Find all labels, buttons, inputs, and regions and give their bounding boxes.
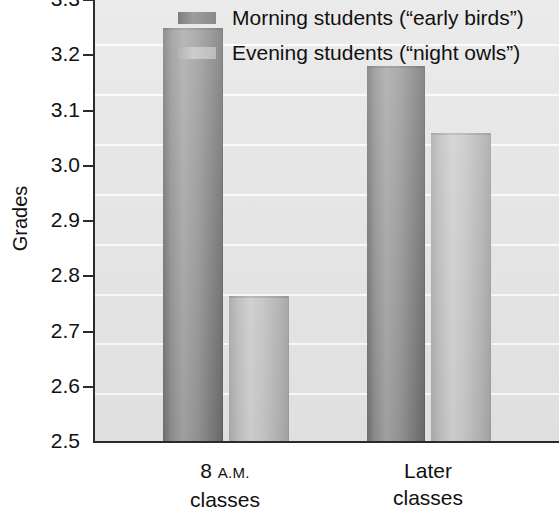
- y-tick-3.3: [83, 0, 94, 1]
- legend: Morning students (“early birds”) Evening…: [178, 0, 558, 70]
- legend-swatch-morning-icon: [178, 12, 216, 24]
- legend-label-evening: Evening students (“night owls”): [232, 41, 520, 65]
- bar-morning-later[interactable]: [367, 66, 425, 442]
- y-tick-label-2.6: 2.6: [34, 374, 80, 398]
- y-tick-2.6: [83, 386, 94, 388]
- y-tick-label-3.0: 3.0: [34, 153, 80, 177]
- x-category-number: Later: [404, 459, 452, 482]
- bar-morning-8am[interactable]: [163, 28, 223, 442]
- x-category-line2: classes: [348, 484, 508, 511]
- y-tick-label-2.9: 2.9: [34, 208, 80, 232]
- legend-item-evening[interactable]: Evening students (“night owls”): [178, 35, 558, 70]
- bar-top-edge: [229, 296, 288, 298]
- legend-item-morning[interactable]: Morning students (“early birds”): [178, 0, 558, 35]
- y-tick-label-3.1: 3.1: [34, 98, 80, 122]
- x-axis-line: [93, 441, 559, 443]
- legend-label-morning: Morning students (“early birds”): [232, 6, 524, 30]
- y-tick-label-2.5: 2.5: [34, 429, 80, 453]
- x-category-line1: Later: [348, 457, 508, 484]
- x-category-line1: 8 A.M.: [145, 457, 305, 486]
- y-tick-3.2: [83, 54, 94, 56]
- y-tick-label-2.8: 2.8: [34, 263, 80, 287]
- y-tick-2.9: [83, 220, 94, 222]
- y-axis-title: Grades: [9, 174, 32, 264]
- x-category-label-8am: 8 A.M. classes: [145, 457, 305, 513]
- y-tick-2.8: [83, 275, 94, 277]
- x-category-line2: classes: [145, 486, 305, 513]
- bar-top-edge: [431, 133, 490, 135]
- y-tick-label-2.7: 2.7: [34, 319, 80, 343]
- x-category-smallcaps: A.M.: [218, 464, 250, 481]
- bar-evening-8am[interactable]: [229, 296, 289, 442]
- x-category-number: 8: [200, 459, 212, 482]
- y-tick-2.7: [83, 331, 94, 333]
- x-category-label-later: Later classes: [348, 457, 508, 511]
- bar-evening-later[interactable]: [431, 133, 491, 442]
- y-tick-3.0: [83, 165, 94, 167]
- legend-swatch-evening-icon: [178, 47, 216, 59]
- y-tick-label-3.3: 3.3: [34, 0, 80, 11]
- bar-chart-figure: 3.33.23.13.02.92.82.72.62.5 Grades Morni…: [0, 0, 559, 513]
- y-tick-3.1: [83, 110, 94, 112]
- y-tick-label-3.2: 3.2: [34, 42, 80, 66]
